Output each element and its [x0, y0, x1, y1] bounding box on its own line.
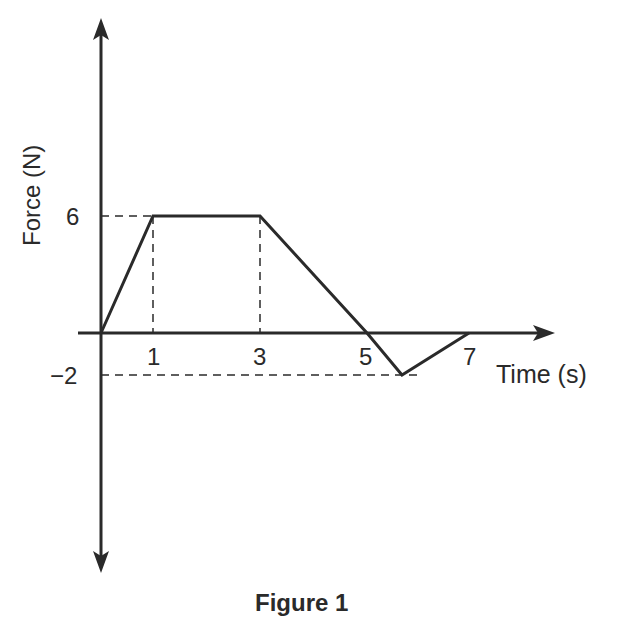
x-axis-label: Time (s): [496, 362, 587, 387]
y-tick-neg2: −2: [50, 364, 77, 388]
x-tick-5: 5: [359, 345, 372, 369]
figure-caption: Figure 1: [255, 589, 348, 617]
x-tick-3: 3: [253, 345, 266, 369]
x-tick-1: 1: [147, 345, 160, 369]
x-tick-7: 7: [463, 345, 476, 369]
y-tick-6: 6: [66, 205, 79, 229]
y-axis-label: Force (N): [18, 145, 46, 246]
